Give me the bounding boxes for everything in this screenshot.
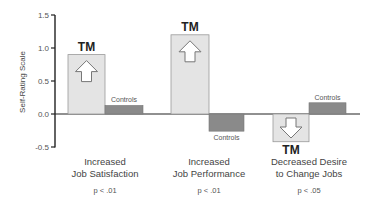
y-tick-label: -0.5 [35,143,49,152]
bar-controls [105,105,143,114]
bars: TMControlsTMControlsTMControls [68,20,346,157]
p-value-label: p < .05 [297,186,320,195]
y-tick-label: 0.0 [38,110,50,119]
y-axis-label: Self-Rating Scale [18,51,27,113]
y-tick-label: 1.5 [38,11,50,20]
category-label-line1: Increased [188,156,230,167]
p-value-label: p < .01 [197,186,220,195]
bar-controls [309,103,346,114]
y-tick-label: 1.0 [38,44,50,53]
tm-label: TM [282,143,299,157]
category-label-line2: to Change Jobs [276,168,343,179]
category-label-line1: Increased [84,156,126,167]
tm-label: TM [181,20,198,34]
category-label-line2: Job Performance [173,168,245,179]
category-label-line1: Decreased Desire [271,156,347,167]
y-tick-label: 0.5 [38,77,50,86]
category-labels: IncreasedJob Satisfactionp < .01Increase… [71,156,347,195]
category-label-line2: Job Satisfaction [71,168,138,179]
controls-label: Controls [314,94,341,101]
tm-label: TM [78,40,95,54]
controls-label: Controls [111,96,138,103]
bar-controls [209,114,244,131]
bar-chart: 1.51.00.50.0-0.5 TMControlsTMControlsTMC… [0,0,382,208]
p-value-label: p < .01 [93,186,116,195]
controls-label: Controls [213,134,240,141]
